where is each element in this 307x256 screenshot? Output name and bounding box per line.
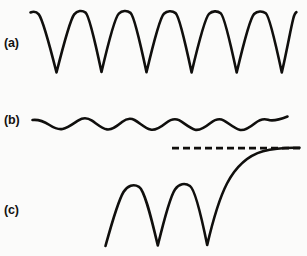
waveform-a-trace: [31, 11, 297, 73]
panel-label-b: (b): [4, 113, 19, 127]
waveform-c-trace: [106, 148, 300, 246]
panel-label-a: (a): [4, 36, 19, 50]
panel-label-c: (c): [4, 203, 19, 217]
waveform-b-trace: [33, 117, 288, 131]
waveform-svg: [0, 0, 307, 256]
figure-canvas: (a) (b) (c): [0, 0, 307, 256]
